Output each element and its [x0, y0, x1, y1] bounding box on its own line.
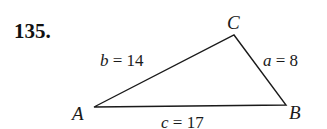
side-b-value: = 14	[109, 51, 145, 70]
vertex-label-c: C	[227, 12, 240, 33]
side-a-value: = 8	[272, 51, 299, 70]
side-a-var: a	[263, 51, 272, 70]
side-c-value: = 17	[169, 113, 205, 129]
vertex-label-a: A	[70, 103, 84, 124]
triangle-diagram: 135. A B C b = 14 a = 8 c = 17	[0, 0, 327, 129]
side-b-var: b	[100, 51, 109, 70]
problem-number: 135.	[14, 19, 51, 43]
triangle-abc	[94, 35, 286, 107]
side-label-a: a = 8	[263, 51, 298, 70]
side-label-c: c = 17	[161, 113, 204, 129]
side-label-b: b = 14	[100, 51, 144, 70]
vertex-label-b: B	[289, 102, 301, 123]
